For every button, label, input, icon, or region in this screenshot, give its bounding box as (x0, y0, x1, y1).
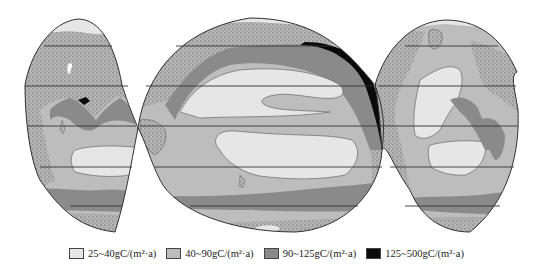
legend-item-25-40: 25~40gC/(m²·a) (69, 248, 156, 259)
legend-swatch (264, 248, 279, 259)
legend-item-90-125: 90~125gC/(m²·a) (264, 248, 357, 259)
legend-swatch (69, 248, 84, 259)
legend-item-40-90: 40~90gC/(m²·a) (166, 248, 253, 259)
ocean-productivity-map (0, 0, 537, 236)
legend-swatch (166, 248, 181, 259)
legend-label: 40~90gC/(m²·a) (185, 248, 253, 259)
legend-swatch (366, 248, 381, 259)
legend-label: 125~500gC/(m²·a) (385, 248, 464, 259)
legend-label: 90~125gC/(m²·a) (283, 248, 357, 259)
legend-item-125-500: 125~500gC/(m²·a) (366, 248, 464, 259)
legend: 25~40gC/(m²·a) 40~90gC/(m²·a) 90~125gC/(… (0, 240, 537, 266)
legend-label: 25~40gC/(m²·a) (88, 248, 156, 259)
